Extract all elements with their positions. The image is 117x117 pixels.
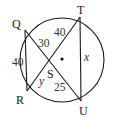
measure-QR: 40	[12, 56, 24, 68]
measure-QS: 30	[38, 37, 50, 49]
point-label-U: U	[79, 104, 88, 117]
point-label-R: R	[16, 93, 24, 107]
point-label-T: T	[77, 3, 85, 17]
circle-chords-diagram: Q T R U S 40 30 40 x y 25	[0, 0, 117, 117]
point-label-Q: Q	[12, 17, 21, 31]
point-label-S: S	[47, 67, 54, 81]
measure-TU: x	[83, 51, 90, 63]
measure-ST: 40	[54, 26, 66, 38]
measure-RS: y	[38, 75, 45, 88]
center-dot	[60, 57, 63, 60]
measure-SU: 25	[54, 81, 66, 93]
chord-TU	[80, 17, 81, 101]
